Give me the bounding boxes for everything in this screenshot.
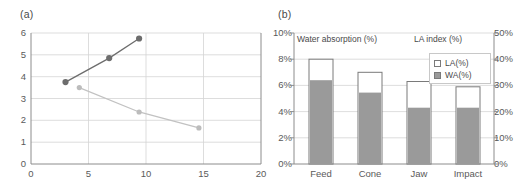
panel-a-series-rising xyxy=(62,35,142,85)
bar-group-impact xyxy=(456,87,480,164)
legend-label-la: LA(%) xyxy=(445,59,469,68)
data-point xyxy=(106,55,112,61)
panel-b: (b) 10% 8% 6% 4% 2% 0% 50% 40% 30% 20% 1… xyxy=(266,0,532,192)
data-point xyxy=(137,109,142,114)
bar-group-cone xyxy=(358,72,382,164)
panel-a: (a) 6 5 4 3 2 1 0 0 5 10 15 20 xyxy=(0,0,266,192)
filled-square-icon xyxy=(434,72,441,79)
bar-group-jaw xyxy=(407,82,431,165)
figure-container: (a) 6 5 4 3 2 1 0 0 5 10 15 20 xyxy=(0,0,532,192)
legend-item-la: LA(%) xyxy=(434,58,485,69)
panel-b-plot xyxy=(266,0,532,192)
data-point xyxy=(77,85,82,90)
data-point xyxy=(136,35,142,41)
legend-item-wa: WA(%) xyxy=(434,70,485,81)
data-point xyxy=(196,125,201,130)
panel-b-legend: LA(%) WA(%) xyxy=(429,53,491,84)
bar-group-feed xyxy=(309,59,333,164)
open-square-icon xyxy=(434,60,441,67)
data-point xyxy=(62,79,68,85)
panel-a-series-falling xyxy=(77,85,202,131)
panel-a-plot xyxy=(0,0,266,192)
legend-label-wa: WA(%) xyxy=(445,71,472,80)
